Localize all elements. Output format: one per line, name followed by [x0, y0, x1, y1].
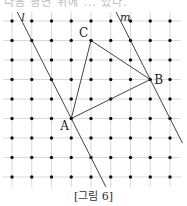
lattice-dot — [70, 117, 73, 120]
lattice-dot — [109, 78, 112, 81]
lattice-dot — [109, 175, 112, 178]
lattice-dot — [70, 39, 73, 42]
lattice-dot — [30, 156, 33, 159]
lattice-dot — [168, 156, 171, 159]
lattice-dot — [30, 39, 33, 42]
lattice-dot — [70, 136, 73, 139]
lattice-dot — [30, 97, 33, 100]
lattice-dot — [149, 58, 152, 61]
point-label-A: A — [59, 119, 69, 133]
lattice-dot — [149, 19, 152, 22]
lattice-dot — [30, 136, 33, 139]
lattice-dot — [109, 117, 112, 120]
lattice-dot — [70, 156, 73, 159]
lattice-dot — [70, 78, 73, 81]
labels: lmABC — [21, 11, 163, 133]
line-label-m: m — [120, 11, 130, 24]
lattice-dot — [168, 19, 171, 22]
lattice-dot — [89, 19, 92, 22]
point-label-C: C — [79, 26, 88, 40]
lattice-dot — [30, 117, 33, 120]
lattice-dot — [168, 39, 171, 42]
lattice-dot — [129, 97, 132, 100]
lattice-dot — [168, 58, 171, 61]
lattice-dot — [109, 156, 112, 159]
lattice-dot — [129, 58, 132, 61]
lattice-dot — [89, 39, 92, 42]
figure-caption: [그림 6] — [0, 187, 187, 203]
lattice-dot — [30, 19, 33, 22]
lattice-dot — [168, 136, 171, 139]
lattice-dot — [10, 117, 13, 120]
line-m — [116, 12, 182, 143]
lattice-dot — [50, 78, 53, 81]
lattice-dot — [149, 97, 152, 100]
lattice-dot — [89, 156, 92, 159]
lattice-dot — [168, 97, 171, 100]
lattice-dot — [129, 117, 132, 120]
lattice-dot — [109, 19, 112, 22]
lattice-dot — [70, 97, 73, 100]
lattice-dot — [129, 156, 132, 159]
parallel-lines — [17, 12, 182, 187]
lattice-dot — [168, 78, 171, 81]
lattice-dot — [89, 97, 92, 100]
lattice-dot — [109, 39, 112, 42]
lattice-dot — [30, 58, 33, 61]
lattice-dot — [50, 175, 53, 178]
lattice-dot — [30, 78, 33, 81]
lattice-dot — [149, 39, 152, 42]
lattice-dot — [70, 175, 73, 178]
lattice-dot — [168, 117, 171, 120]
lattice-dot — [129, 175, 132, 178]
lattice-dot — [149, 136, 152, 139]
lattice-dot — [10, 39, 13, 42]
lattice-dot — [149, 78, 152, 81]
lattice-dot — [10, 97, 13, 100]
lattice-dot — [168, 175, 171, 178]
lattice-dot — [129, 78, 132, 81]
lattice-dot — [129, 136, 132, 139]
lattice-diagram: lmABC — [0, 0, 187, 188]
lattice-dot — [149, 117, 152, 120]
lattice-dot — [10, 19, 13, 22]
lattice-dot — [89, 117, 92, 120]
lattice-dot — [50, 39, 53, 42]
lattice-dot — [109, 136, 112, 139]
lattice-dot — [149, 156, 152, 159]
lattice-dot — [89, 58, 92, 61]
lattice-dot — [129, 39, 132, 42]
lattice-dot — [89, 136, 92, 139]
lattice-dot — [89, 78, 92, 81]
lattice-dot — [50, 136, 53, 139]
lattice-dot — [109, 97, 112, 100]
lattice-dot — [50, 19, 53, 22]
lattice-dot — [70, 19, 73, 22]
lattice-dot — [50, 97, 53, 100]
lattice-dot — [10, 175, 13, 178]
lattice-dot — [50, 156, 53, 159]
lattice-dot — [70, 58, 73, 61]
lattice-dot — [30, 175, 33, 178]
lattice-dot — [149, 175, 152, 178]
line-label-l: l — [21, 11, 25, 24]
point-label-B: B — [154, 73, 163, 87]
lattice-dot — [10, 78, 13, 81]
lattice-dot — [10, 58, 13, 61]
lattice-dot — [10, 136, 13, 139]
lattice-dot — [109, 58, 112, 61]
lattice-dot — [50, 58, 53, 61]
lattice-dot — [10, 156, 13, 159]
lattice-dot — [50, 117, 53, 120]
lattice-dot — [89, 175, 92, 178]
